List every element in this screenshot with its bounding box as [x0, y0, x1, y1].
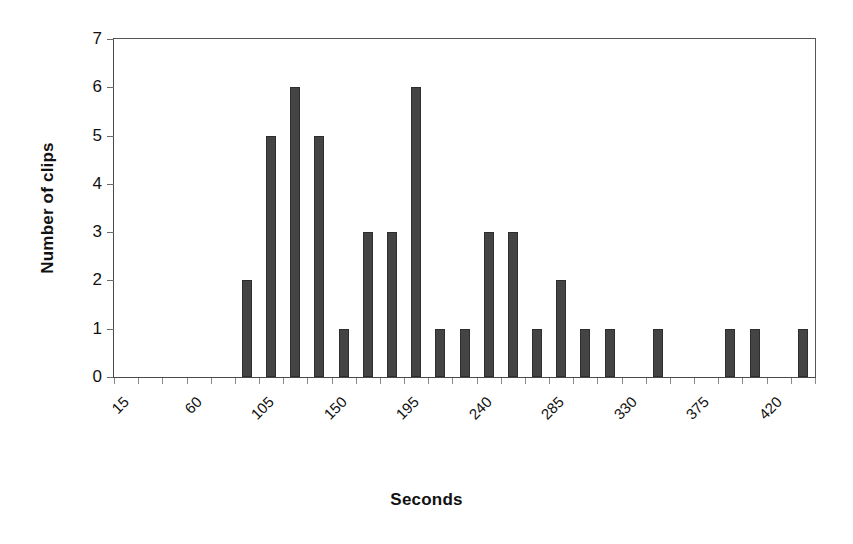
bar [725, 329, 735, 377]
bar [435, 329, 445, 377]
y-axis-tick-label: 3 [93, 222, 102, 242]
y-axis-title: Number of clips [38, 78, 58, 338]
bar [484, 232, 494, 377]
x-axis-tick [162, 377, 163, 384]
bar [508, 232, 518, 377]
y-axis-tick-label: 5 [93, 126, 102, 146]
y-axis-tick-label: 6 [93, 77, 102, 97]
y-axis-tick [107, 39, 114, 40]
x-axis-tick [646, 377, 647, 384]
x-axis-tick [718, 377, 719, 384]
bar [580, 329, 590, 377]
bar [314, 136, 324, 377]
x-axis-tick [670, 377, 671, 384]
x-axis-tick [307, 377, 308, 384]
x-axis-tick [597, 377, 598, 384]
y-axis-tick-label: 2 [93, 270, 102, 290]
x-axis-tick-label: 15 [108, 393, 132, 417]
x-axis-tick [525, 377, 526, 384]
x-axis-tick-label: 195 [392, 393, 422, 423]
y-axis-tick-label: 0 [93, 367, 102, 387]
x-axis-tick [815, 377, 816, 384]
y-axis-tick [107, 377, 114, 378]
x-axis-tick-label: 375 [682, 393, 712, 423]
bar [290, 87, 300, 377]
x-axis-tick [428, 377, 429, 384]
plot-area: 01234567 1560105150195240285330375420 [113, 38, 816, 378]
x-axis-tick [211, 377, 212, 384]
bar [339, 329, 349, 377]
x-axis-tick [187, 377, 188, 384]
x-axis-tick-label: 330 [610, 393, 640, 423]
x-axis-tick [573, 377, 574, 384]
x-axis-tick [622, 377, 623, 384]
bar [605, 329, 615, 377]
x-axis-tick-label: 60 [181, 393, 205, 417]
x-axis-tick [138, 377, 139, 384]
x-axis-tick [259, 377, 260, 384]
x-axis-tick [477, 377, 478, 384]
x-axis-tick [791, 377, 792, 384]
y-axis-tick [107, 184, 114, 185]
y-axis-tick [107, 280, 114, 281]
x-axis-tick-label: 105 [247, 393, 277, 423]
x-axis-tick [283, 377, 284, 384]
y-axis-tick [107, 87, 114, 88]
x-axis-tick [452, 377, 453, 384]
x-axis-tick-label: 150 [320, 393, 350, 423]
x-axis-tick [380, 377, 381, 384]
bar [556, 280, 566, 377]
y-axis-tick-label: 4 [93, 174, 102, 194]
bar [653, 329, 663, 377]
x-axis-tick [356, 377, 357, 384]
x-axis-tick-label: 285 [537, 393, 567, 423]
bar [387, 232, 397, 377]
x-axis-tick [114, 377, 115, 384]
y-axis-tick [107, 329, 114, 330]
bar [798, 329, 808, 377]
y-axis-tick [107, 136, 114, 137]
chart-figure: Number of clips 01234567 156010515019524… [0, 0, 853, 544]
x-axis-tick [742, 377, 743, 384]
x-axis-tick [332, 377, 333, 384]
bar [363, 232, 373, 377]
x-axis-tick [235, 377, 236, 384]
x-axis-tick [404, 377, 405, 384]
y-axis-tick-label: 7 [93, 29, 102, 49]
bar [242, 280, 252, 377]
x-axis-tick [694, 377, 695, 384]
y-axis-tick-label: 1 [93, 319, 102, 339]
bar [411, 87, 421, 377]
x-axis-tick [767, 377, 768, 384]
x-axis-title: Seconds [0, 490, 853, 510]
bar [266, 136, 276, 377]
bar [460, 329, 470, 377]
y-axis-tick [107, 232, 114, 233]
x-axis-tick [549, 377, 550, 384]
x-axis-tick-label: 240 [465, 393, 495, 423]
x-axis-tick [501, 377, 502, 384]
x-axis-tick-label: 420 [755, 393, 785, 423]
bar [750, 329, 760, 377]
bar [532, 329, 542, 377]
